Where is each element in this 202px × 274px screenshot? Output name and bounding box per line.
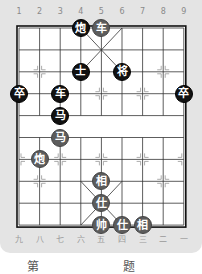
- piece-red-7-9[interactable]: 相: [134, 216, 152, 234]
- piece-red-5-8[interactable]: 仕: [92, 194, 110, 212]
- piece-red-5-9[interactable]: 帅: [92, 216, 110, 234]
- piece-label: 仕: [96, 198, 107, 209]
- piece-black-1-3[interactable]: 卒: [10, 85, 28, 103]
- piece-black-4-0[interactable]: 炮: [72, 19, 90, 37]
- piece-red-2-6[interactable]: 炮: [31, 150, 49, 168]
- piece-label: 炮: [75, 23, 86, 34]
- piece-black-4-2[interactable]: 士: [72, 63, 90, 81]
- piece-red-3-5[interactable]: 马: [51, 129, 69, 147]
- piece-label: 仕: [117, 220, 128, 231]
- piece-red-6-9[interactable]: 仕: [113, 216, 131, 234]
- piece-label: 车: [55, 88, 66, 99]
- piece-black-6-2[interactable]: 将: [113, 63, 131, 81]
- piece-label: 帅: [96, 220, 107, 231]
- piece-label: 将: [117, 66, 128, 77]
- piece-black-9-3[interactable]: 卒: [175, 85, 193, 103]
- piece-label: 马: [55, 110, 66, 121]
- puzzle-caption: 第 题: [0, 257, 202, 274]
- piece-red-5-0[interactable]: 车: [92, 19, 110, 37]
- piece-label: 车: [96, 23, 107, 34]
- piece-label: 炮: [34, 154, 45, 165]
- piece-black-3-4[interactable]: 马: [51, 107, 69, 125]
- piece-label: 士: [75, 66, 86, 77]
- piece-label: 相: [96, 176, 107, 187]
- piece-label: 卒: [14, 88, 25, 99]
- piece-label: 马: [55, 132, 66, 143]
- piece-black-3-3[interactable]: 车: [51, 85, 69, 103]
- piece-label: 卒: [178, 88, 189, 99]
- piece-red-5-7[interactable]: 相: [92, 172, 110, 190]
- piece-label: 相: [137, 220, 148, 231]
